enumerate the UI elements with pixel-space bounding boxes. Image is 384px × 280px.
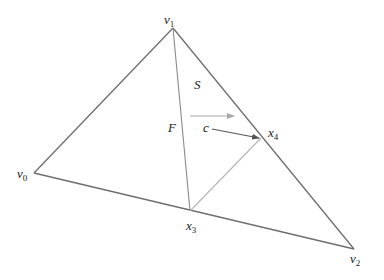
label-c: c xyxy=(203,120,209,135)
label-v1: v1 xyxy=(164,12,174,29)
label-v0: v0 xyxy=(17,166,28,183)
label-S: S xyxy=(194,77,201,92)
segment-x3-x4 xyxy=(190,138,261,211)
edge-v1-v2 xyxy=(173,28,354,249)
edge-v0-v2 xyxy=(34,173,354,249)
c-arrow xyxy=(212,129,259,138)
label-F: F xyxy=(167,120,177,135)
label-x4: x4 xyxy=(267,125,279,142)
label-v2: v2 xyxy=(350,251,360,268)
label-x3: x3 xyxy=(185,218,197,235)
edge-v0-v1 xyxy=(34,28,173,173)
triangle-diagram: v0 v1 v2 x3 x4 S F c xyxy=(0,0,384,280)
